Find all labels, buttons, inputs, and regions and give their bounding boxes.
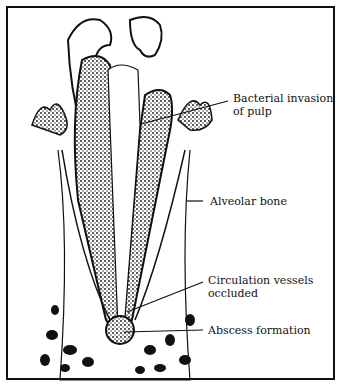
gum-right: [178, 101, 212, 130]
label-abscess-formation: Abscess formation: [208, 324, 311, 337]
label-line: Alveolar bone: [210, 195, 287, 208]
label-line: Circulation vessels: [208, 274, 313, 287]
label-alveolar-bone: Alveolar bone: [210, 195, 287, 208]
abscess-shape: [106, 316, 134, 344]
label-line: Abscess formation: [208, 324, 311, 337]
gum-left: [32, 104, 67, 135]
label-line: of pulp: [233, 105, 333, 118]
label-line: Bacterial invasion: [233, 92, 333, 105]
label-bacterial-invasion: Bacterial invasion of pulp: [233, 92, 333, 118]
label-line: occluded: [208, 287, 313, 300]
label-circulation-vessels: Circulation vessels occluded: [208, 274, 313, 300]
